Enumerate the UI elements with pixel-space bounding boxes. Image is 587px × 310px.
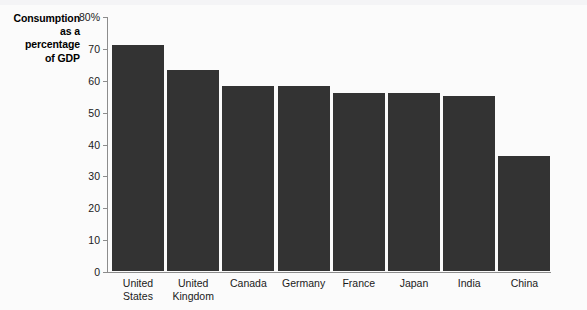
y-tick-mark [103,81,107,82]
y-tick-label: 70 [88,43,100,55]
bar [498,156,550,271]
y-tick-mark [103,240,107,241]
y-tick-label: 60 [88,75,100,87]
bar [333,93,385,272]
bar [443,96,495,271]
y-axis-title-line-2: as a [0,25,80,38]
y-tick-label: 20 [88,202,100,214]
bar [112,45,164,271]
y-tick-mark [103,176,107,177]
y-axis-title-line-4: of GDP [0,52,80,65]
plot-area: 01020304050607080% UnitedStatesUnitedKin… [107,17,551,272]
x-axis-line [107,272,551,273]
y-tick-label: 10 [88,234,100,246]
y-tick-mark [103,145,107,146]
y-tick-label: 50 [88,107,100,119]
y-tick-mark [103,272,107,273]
y-axis-title: Consumption as a percentage of GDP [0,12,80,65]
y-tick-mark [103,208,107,209]
bar [388,93,440,272]
y-axis-title-line-1: Consumption [0,12,80,25]
bar [167,70,219,271]
chart-page: Consumption as a percentage of GDP 01020… [0,0,587,310]
y-axis-line [107,17,108,273]
scan-artifact-strip [0,0,587,5]
x-axis-category-label-line: Kingdom [155,290,231,303]
y-tick-mark [103,113,107,114]
y-tick-mark [103,49,107,50]
x-axis-category-label-line: China [486,277,562,290]
x-axis-category-label: China [486,277,562,290]
y-tick-label: 40 [88,139,100,151]
bar [222,86,274,271]
y-tick-label: 30 [88,170,100,182]
y-tick-label: 80% [79,11,100,23]
y-tick-mark [103,17,107,18]
y-axis-title-line-3: percentage [0,38,80,51]
bar [278,86,330,271]
